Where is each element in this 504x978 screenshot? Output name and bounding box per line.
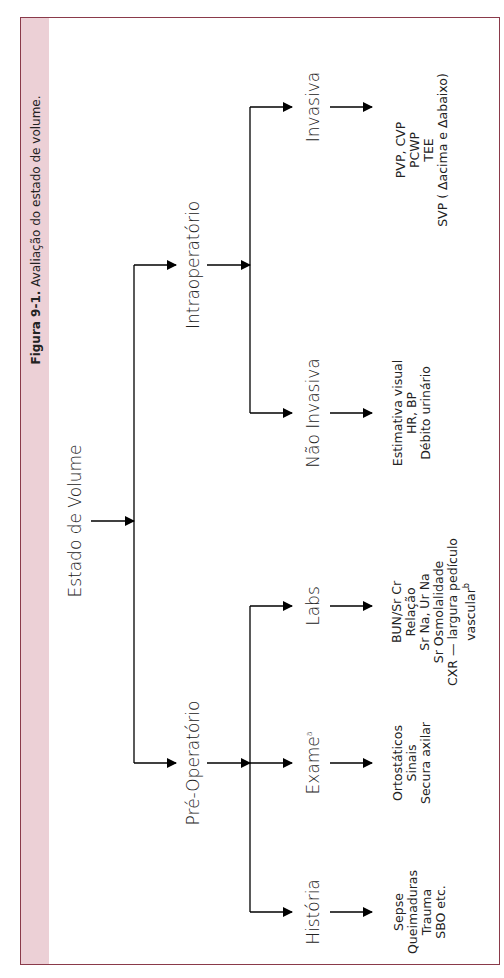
detail-invasiva: PVP, CVP PCWP TEE SVP ( Δacima e Δabaixo… [394, 73, 450, 227]
detail-line: Sr Osmolalidade [432, 538, 446, 686]
detail-line: CXR — largura pedículo [446, 538, 460, 686]
detail-line-text: vascular [463, 588, 478, 641]
detail-line: BUN/Sr Cr [390, 538, 404, 686]
node-historia: História [303, 879, 323, 945]
detail-line: Sinais [405, 722, 419, 804]
detail-line: TEE [422, 73, 436, 227]
node-exame: Examea [303, 731, 323, 794]
detail-line: Secura axilar [419, 722, 433, 804]
detail-line: SBO etc. [434, 870, 448, 954]
exame-label: Exame [303, 736, 323, 794]
node-pre-operatorio: Pré-Operatório [183, 701, 203, 826]
node-nao-invasiva: Não Invasiva [303, 358, 323, 467]
detail-nao-invasiva: Estimativa visual HR, BP Débito urinário [391, 360, 433, 466]
detail-line: HR, BP [405, 360, 419, 466]
detail-line: SVP ( Δacima e Δabaixo) [436, 73, 450, 227]
figure-caption: Figura 9-1. Avaliação do estado de volum… [29, 95, 43, 364]
detail-exame: Ortostáticos Sinais Secura axilar [391, 722, 433, 804]
detail-line: Débito urinário [419, 360, 433, 466]
detail-line: Trauma [420, 870, 434, 954]
detail-line: Sepse [392, 870, 406, 954]
detail-line: PCWP [408, 73, 422, 227]
detail-line: PVP, CVP [394, 73, 408, 227]
detail-line: Relação [404, 538, 418, 686]
labs-footnote-marker: b [462, 583, 471, 588]
exame-footnote-marker: a [305, 731, 314, 736]
node-invasiva: Invasiva [303, 72, 323, 142]
detail-line: Ortostáticos [391, 722, 405, 804]
node-labs: Labs [303, 586, 323, 626]
detail-historia: Sepse Queimaduras Trauma SBO etc. [392, 870, 448, 954]
detail-line: Queimaduras [406, 870, 420, 954]
node-estado-de-volume: Estado de Volume [65, 444, 85, 597]
node-intraoperatorio: Intraoperatório [183, 201, 203, 329]
detail-labs: BUN/Sr Cr Relação Sr Na, Ur Na Sr Osmola… [390, 538, 477, 686]
detail-line: Sr Na, Ur Na [418, 538, 432, 686]
detail-line: vascularb [460, 538, 477, 686]
detail-line: Estimativa visual [391, 360, 405, 466]
caption-label: Figura 9-1. [29, 291, 43, 365]
caption-text: Avaliação do estado de volume. [29, 95, 43, 290]
